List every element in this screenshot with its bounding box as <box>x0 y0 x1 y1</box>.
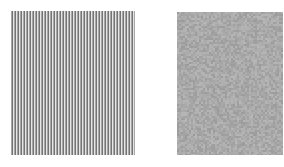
noise-texture-graphic <box>177 12 283 155</box>
stripe-pattern-graphic <box>11 11 135 155</box>
vertical-grating-panel <box>11 11 135 155</box>
gray-noise-panel <box>177 12 283 155</box>
